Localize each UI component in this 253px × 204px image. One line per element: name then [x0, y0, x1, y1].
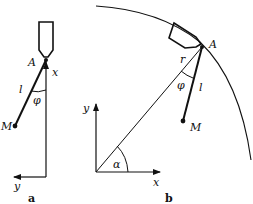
label-r-b: r: [180, 53, 186, 66]
figure-b: A r φ l M y x α b: [82, 6, 251, 204]
point-M-b: [181, 119, 186, 124]
point-A-b: [200, 45, 204, 49]
label-l-b: l: [199, 81, 203, 94]
caption-a: a: [28, 192, 35, 204]
label-y-b: y: [82, 102, 90, 115]
label-M-b: M: [189, 121, 202, 134]
point-M-a: [13, 124, 18, 129]
label-M-a: M: [0, 120, 13, 133]
orbit-arc-b: [96, 6, 251, 160]
figure-a: A x l φ M y a: [0, 22, 59, 204]
device-body-a: [39, 22, 53, 57]
diagram-canvas: A x l φ M y a A r φ l M y x α b: [0, 0, 253, 204]
label-phi-a: φ: [33, 94, 41, 107]
label-y-a: y: [13, 180, 21, 193]
label-alpha-b: α: [113, 158, 121, 171]
label-l-a: l: [19, 83, 23, 96]
label-x-b: x: [153, 176, 160, 189]
label-x-a: x: [52, 66, 59, 79]
label-phi-b: φ: [177, 79, 185, 92]
device-body-b: [169, 23, 201, 48]
label-A-b: A: [208, 38, 217, 51]
angle-arc-phi-b: [181, 71, 193, 78]
angle-arc-phi-a: [31, 90, 46, 92]
caption-b: b: [165, 192, 173, 204]
point-A-a: [44, 58, 48, 62]
label-A-a: A: [27, 56, 36, 69]
